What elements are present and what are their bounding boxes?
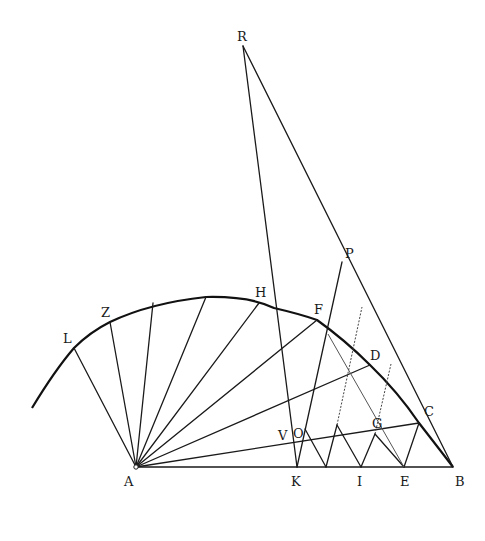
label-F: F <box>314 302 323 317</box>
label-C: C <box>424 404 434 419</box>
label-H: H <box>255 285 266 300</box>
dotted-line-1 <box>337 307 362 425</box>
line-RK <box>243 46 297 467</box>
label-B: B <box>455 474 465 489</box>
label-O: O <box>293 426 304 441</box>
line-cross-to-E <box>328 334 404 467</box>
zigzag <box>305 423 419 467</box>
label-P: P <box>345 246 354 261</box>
label-G: G <box>372 416 382 431</box>
label-A: A <box>123 474 134 489</box>
point-A-marker <box>134 465 138 469</box>
label-R: R <box>237 29 248 44</box>
radii-from-A <box>74 297 419 467</box>
label-E: E <box>400 474 410 489</box>
point-labels: R P H F Z L D C G V O A K I E B <box>63 29 465 489</box>
label-Z: Z <box>101 305 110 320</box>
label-L: L <box>63 331 72 346</box>
label-K: K <box>291 474 301 489</box>
label-I: I <box>357 474 362 489</box>
label-D: D <box>370 348 380 363</box>
geometry-diagram: R P H F Z L D C G V O A K I E B <box>0 0 485 541</box>
label-V: V <box>277 428 288 443</box>
